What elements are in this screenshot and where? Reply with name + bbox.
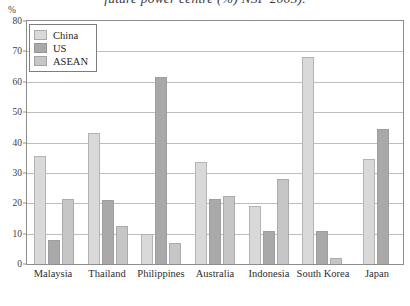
y-tick-label-80: 80	[13, 16, 23, 26]
bar-asean-thailand[interactable]	[116, 226, 128, 264]
bar-asean-philippines[interactable]	[169, 243, 181, 264]
bar-group-australia	[188, 21, 242, 264]
y-tick-label-0: 0	[17, 259, 22, 269]
bar-us-australia[interactable]	[209, 199, 221, 264]
y-tick-label-10: 10	[13, 229, 23, 239]
bar-asean-malaysia[interactable]	[62, 199, 74, 264]
legend-label-asean: ASEAN	[53, 56, 88, 67]
y-tick-label-20: 20	[13, 198, 23, 208]
x-label-philippines: Philippines	[134, 268, 188, 279]
x-label-japan: Japan	[350, 268, 404, 279]
y-axis-unit-label: %	[8, 5, 16, 15]
bar-us-japan[interactable]	[377, 129, 389, 264]
y-tick-label-50: 50	[13, 107, 23, 117]
bar-china-japan[interactable]	[363, 159, 375, 264]
bar-us-malaysia[interactable]	[48, 240, 60, 264]
x-label-south-korea: South Korea	[296, 268, 350, 279]
chart-title: future power centre (%) NSF 2005).	[0, 0, 410, 7]
bar-china-australia[interactable]	[195, 162, 207, 264]
x-label-thailand: Thailand	[80, 268, 134, 279]
bar-china-south-korea[interactable]	[302, 57, 314, 264]
bar-group-philippines	[134, 21, 188, 264]
bar-group-south-korea	[296, 21, 350, 264]
legend-swatch-china-icon	[34, 30, 47, 40]
bar-group-japan	[349, 21, 403, 264]
legend-label-china: China	[53, 30, 78, 41]
legend-item-us[interactable]: US	[34, 42, 88, 54]
bar-china-indonesia[interactable]	[249, 206, 261, 264]
y-tick-label-40: 40	[13, 138, 23, 148]
x-label-malaysia: Malaysia	[26, 268, 80, 279]
chart-legend: ChinaUSASEAN	[29, 24, 97, 72]
y-tick-label-60: 60	[13, 77, 23, 87]
x-label-indonesia: Indonesia	[242, 268, 296, 279]
bar-us-philippines[interactable]	[155, 77, 167, 264]
bar-us-thailand[interactable]	[102, 200, 114, 264]
bar-us-indonesia[interactable]	[263, 231, 275, 264]
legend-swatch-asean-icon	[34, 56, 47, 66]
x-label-australia: Australia	[188, 268, 242, 279]
bar-us-south-korea[interactable]	[316, 231, 328, 264]
legend-item-china[interactable]: China	[34, 29, 88, 41]
chart-page: future power centre (%) NSF 2005). % 010…	[0, 0, 410, 306]
bar-china-malaysia[interactable]	[34, 156, 46, 264]
y-tick-label-30: 30	[13, 168, 23, 178]
y-tick-label-70: 70	[13, 46, 23, 56]
bar-asean-australia[interactable]	[223, 196, 235, 264]
bar-china-thailand[interactable]	[88, 133, 100, 264]
bar-asean-south-korea[interactable]	[330, 258, 342, 264]
x-axis-labels: MalaysiaThailandPhilippinesAustraliaIndo…	[26, 268, 404, 279]
legend-label-us: US	[53, 43, 66, 54]
bar-asean-indonesia[interactable]	[277, 179, 289, 264]
legend-swatch-us-icon	[34, 43, 47, 53]
bar-china-philippines[interactable]	[141, 234, 153, 264]
legend-item-asean[interactable]: ASEAN	[34, 55, 88, 67]
bar-group-indonesia	[242, 21, 296, 264]
